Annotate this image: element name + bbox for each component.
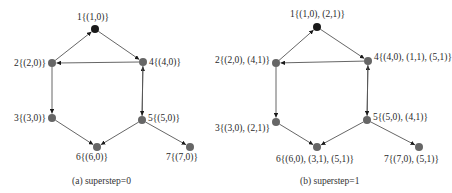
node-label-5: 5{(5,0)} [148, 113, 180, 124]
edge-3-to-6 [55, 120, 93, 144]
node-label-3: 3{(3,0), (2,1)} [215, 123, 270, 134]
node-label-2: 2{(2,0)} [14, 58, 46, 69]
panel-b-superstep-1: 1{(1,0), (2,1)}2{(2,0), (4,1)}3{(3,0), (… [215, 9, 452, 187]
node-label-7: 7{(7,0)} [166, 152, 198, 163]
node-6 [313, 143, 321, 151]
node-label-2: 2{(2,0), (4,1)} [215, 55, 270, 66]
node-label-7: 7{(7,0), (5,1)} [384, 154, 439, 165]
node-3 [48, 114, 56, 122]
node-label-5: 5{(5,0), (4,1)} [373, 112, 428, 123]
node-label-1: 1{(1,0), (2,1)} [290, 9, 345, 20]
edge-4-to-2 [281, 61, 365, 63]
edge-3-to-6 [279, 124, 313, 145]
node-7 [415, 143, 423, 151]
edge-5-to-6 [101, 122, 139, 145]
node-2 [48, 59, 56, 67]
edge-2-to-1 [55, 32, 91, 61]
panel-caption: (b) superstep=1 [300, 176, 360, 187]
node-label-4: 4{(4,0), (1,1), (5,1)} [374, 52, 452, 63]
edge-1-to-4 [320, 29, 364, 58]
node-1 [313, 23, 321, 31]
node-2 [272, 59, 280, 67]
node-label-1: 1{(1,0)} [77, 12, 109, 23]
edge-4-to-2 [57, 62, 140, 63]
edge-5-to-7 [371, 122, 416, 145]
edge-2-to-1 [279, 30, 314, 60]
edge-5-to-6 [321, 122, 364, 145]
node-label-6: 6{(6,0), (3,1), (5,1)} [276, 154, 354, 165]
node-label-3: 3{(3,0)} [14, 113, 46, 124]
node-3 [272, 118, 280, 126]
edge-5-to-7 [146, 122, 187, 145]
node-5 [363, 116, 371, 124]
edge-4-to-5 [367, 65, 368, 116]
node-4 [139, 58, 147, 66]
panel-caption: (a) superstep=0 [72, 176, 131, 187]
edge-4-to-5 [142, 66, 143, 116]
node-7 [186, 143, 194, 151]
node-4 [364, 57, 372, 65]
panel-a-superstep-0: 1{(1,0)}2{(2,0)}3{(3,0)}4{(4,0)}5{(5,0)}… [14, 12, 198, 187]
node-label-6: 6{(6,0)} [76, 152, 108, 163]
node-label-4: 4{(4,0)} [149, 57, 181, 68]
node-5 [138, 116, 146, 124]
edge-1-to-4 [98, 31, 139, 59]
node-1 [91, 25, 99, 33]
graph-figure: 1{(1,0)}2{(2,0)}3{(3,0)}4{(4,0)}5{(5,0)}… [0, 0, 452, 193]
node-6 [93, 143, 101, 151]
